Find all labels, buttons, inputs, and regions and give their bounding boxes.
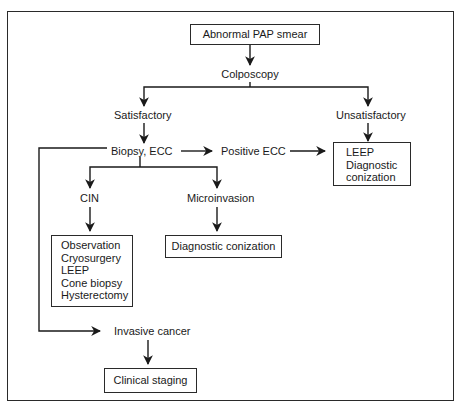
edge-biopsy-to-microinvasion (140, 167, 217, 188)
node-label-line: Observation (61, 239, 132, 252)
node-label-line: LEEP (346, 146, 410, 159)
node-label: Diagnostic conization (172, 240, 276, 252)
node-label: CIN (80, 192, 99, 204)
edge-biopsy-to-cin (90, 167, 140, 188)
node-label: Unsatisfactory (336, 109, 406, 121)
node-label: Abnormal PAP smear (203, 28, 308, 40)
node-unsatisfactory: Unsatisfactory (336, 109, 406, 122)
node-label-line: Hysterectomy (61, 289, 132, 302)
edge-colposcopy-to-satisfactory (144, 87, 250, 106)
node-label-line: LEEP (61, 264, 132, 277)
node-clinical-staging: Clinical staging (104, 368, 197, 393)
node-label: Clinical staging (114, 374, 188, 386)
node-label-line: conization (346, 171, 410, 184)
node-diagnostic-conization: Diagnostic conization (165, 235, 282, 258)
node-label: Satisfactory (114, 109, 171, 121)
node-label: Colposcopy (221, 68, 278, 80)
node-label: Microinvasion (187, 192, 254, 204)
node-colposcopy: Colposcopy (200, 68, 300, 81)
node-cin-treatments: Observation Cryosurgery LEEP Cone biopsy… (51, 235, 133, 307)
node-microinvasion: Microinvasion (187, 192, 254, 205)
edge-colposcopy-to-unsatisfactory (250, 87, 368, 106)
node-cin: CIN (80, 192, 99, 205)
node-biopsy-ecc: Biopsy, ECC (111, 145, 173, 158)
node-label-line: Cone biopsy (61, 277, 132, 290)
node-label-line: Cryosurgery (61, 252, 132, 265)
node-leep-diagnostic-conization: LEEP Diagnostic conization (333, 142, 411, 186)
node-abnormal-pap-smear: Abnormal PAP smear (190, 24, 320, 45)
node-label: Invasive cancer (114, 325, 190, 337)
node-satisfactory: Satisfactory (114, 109, 171, 122)
node-invasive-cancer: Invasive cancer (114, 325, 190, 338)
node-label: Positive ECC (221, 145, 286, 157)
connector-layer (0, 0, 469, 411)
node-label: Biopsy, ECC (111, 145, 173, 157)
node-positive-ecc: Positive ECC (221, 145, 286, 158)
node-label-line: Diagnostic (346, 159, 410, 172)
